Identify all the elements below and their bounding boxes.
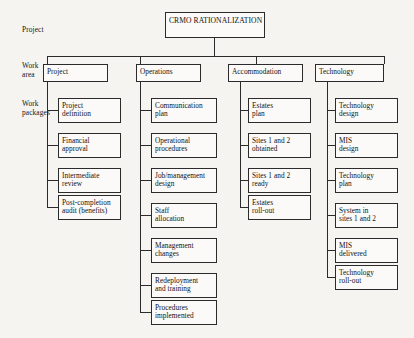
work-package-box: Communication plan (151, 98, 217, 123)
connector-tick-operations-4 (140, 250, 151, 251)
connector-bus (47, 56, 384, 57)
work-package-box: Staff allocation (151, 203, 217, 228)
connector-tick-operations-2 (140, 180, 151, 181)
work-package-box: Job/management design (151, 168, 217, 193)
connector-tick-technology-2 (327, 180, 335, 181)
work-package-box: MIS delivered (335, 238, 398, 263)
work-package-box: Estates roll-out (248, 195, 311, 220)
work-package-box: Financial approval (58, 133, 121, 158)
connector-tick-technology-1 (327, 145, 335, 146)
connector-tick-operations-0 (140, 110, 151, 111)
work-package-box: Post-completion audit (benefits) (58, 195, 121, 220)
work-package-box: System in sites 1 and 2 (335, 203, 398, 228)
work-package-box: Estates plan (248, 98, 311, 123)
work-package-box: Technology design (335, 98, 398, 123)
work-package-box: Technology roll-out (335, 265, 398, 290)
connector-tick-project-3 (47, 207, 58, 208)
connector-tick-operations-1 (140, 145, 151, 146)
connector-tick-technology-4 (327, 250, 335, 251)
connector-tick-technology-5 (327, 277, 335, 278)
connector-tick-project-1 (47, 145, 58, 146)
connector-tick-accommodation-0 (240, 110, 248, 111)
work-area-box-project: Project (43, 64, 108, 82)
root-node-crmo-rationalization: CRMO RATIONALIZATION (165, 12, 265, 38)
connector-root-stem (214, 38, 215, 56)
connector-tick-operations-5 (140, 285, 151, 286)
connector-tick-technology-0 (327, 110, 335, 111)
work-package-box: MIS design (335, 133, 398, 158)
connector-tick-operations-3 (140, 215, 151, 216)
work-breakdown-structure-diagram: Project Work area Work packages CRMO RAT… (0, 0, 414, 338)
connector-drop-project (47, 56, 48, 64)
connector-tick-project-0 (47, 110, 58, 111)
connector-drop-technology (384, 56, 385, 64)
work-area-box-operations: Operations (136, 64, 201, 82)
connector-drop-accommodation (256, 56, 257, 64)
row-label-project: Project (22, 26, 44, 35)
connector-tick-accommodation-3 (240, 207, 248, 208)
work-package-box: Procedures implemented (151, 300, 217, 325)
work-package-box: Intermediate review (58, 168, 121, 193)
connector-spine-operations (140, 82, 141, 312)
work-package-box: Operational procedures (151, 133, 217, 158)
work-area-box-accommodation: Accommodation (228, 64, 303, 82)
connector-drop-operations (140, 56, 141, 64)
work-package-box: Project definition (58, 98, 121, 123)
work-package-box: Sites 1 and 2 ready (248, 168, 311, 193)
work-package-box: Technology plan (335, 168, 398, 193)
connector-tick-operations-6 (140, 312, 151, 313)
work-package-box: Sites 1 and 2 obtained (248, 133, 311, 158)
row-label-work-packages: Work packages (22, 100, 50, 117)
figure-caption (0, 331, 414, 338)
work-area-box-technology: Technology (315, 64, 384, 82)
connector-tick-accommodation-2 (240, 180, 248, 181)
connector-tick-technology-3 (327, 215, 335, 216)
row-label-work-area: Work area (22, 62, 39, 79)
connector-tick-accommodation-1 (240, 145, 248, 146)
work-package-box: Management changes (151, 238, 217, 263)
connector-tick-project-2 (47, 180, 58, 181)
work-package-box: Redeployment and training (151, 273, 217, 298)
